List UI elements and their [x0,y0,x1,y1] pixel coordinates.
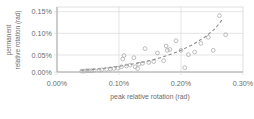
x-tick-label-3: 0.30% [233,79,254,88]
plot-area-background [57,7,243,72]
y-axis-title-line1: permanent [5,25,13,56]
x-tick-label-0: 0.00% [47,79,68,88]
y-axis-ticks [54,12,57,72]
x-axis-ticks [57,72,243,75]
x-axis-title: peak relative rotation (rad) [110,93,189,101]
y-axis-title: permanent relative rotation (rad) [5,11,22,70]
scatter-chart: 0.15% 0.10% 0.05% 0.00% 0.00% 0.10% 0.20… [0,0,254,119]
x-tick-label-1: 0.10% [109,79,130,88]
y-tick-label-1: 0.05% [32,51,53,60]
chart-canvas: 0.15% 0.10% 0.05% 0.00% 0.00% 0.10% 0.20… [0,0,254,119]
y-axis-title-line2: relative rotation (rad) [14,11,22,70]
y-tick-labels: 0.15% 0.10% 0.05% 0.00% [32,7,53,76]
x-tick-label-2: 0.20% [171,79,192,88]
y-tick-label-0: 0.00% [32,68,53,77]
x-tick-labels: 0.00% 0.10% 0.20% 0.30% [47,79,254,88]
y-tick-label-2: 0.10% [32,29,53,38]
y-tick-label-3: 0.15% [32,7,53,16]
